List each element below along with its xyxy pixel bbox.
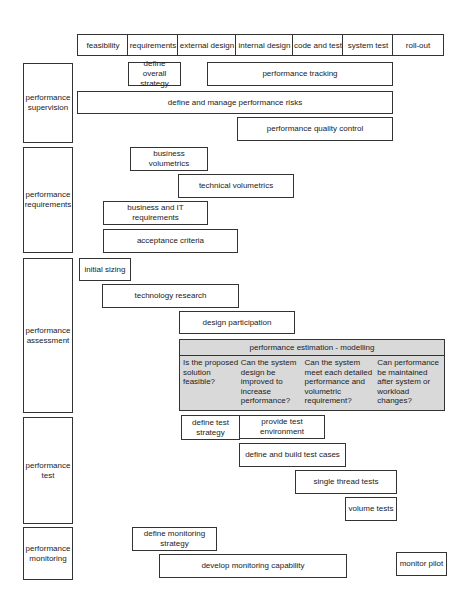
activity-technical-volumetrics: technical volumetrics <box>178 174 294 198</box>
phase-internal-design: internal design <box>235 34 294 56</box>
row-label-supervision: performance supervision <box>23 63 73 143</box>
estimation-question: Can the system design be improved to inc… <box>241 358 305 406</box>
row-label-test: performance test <box>23 417 73 524</box>
activity-define-monitoring-strategy: define monitoring strategy <box>132 527 217 551</box>
activity-business-volumetrics: business volumetrics <box>130 147 208 171</box>
activity-quality-control: performance quality control <box>237 117 393 141</box>
activity-single-thread-tests: single thread tests <box>295 470 397 494</box>
activity-performance-tracking: performance tracking <box>207 62 393 86</box>
activity-initial-sizing: initial sizing <box>79 258 131 281</box>
phase-system-test: system test <box>342 34 394 56</box>
activity-acceptance-criteria: acceptance criteria <box>103 229 238 253</box>
activity-define-build-test-cases: define and build test cases <box>239 443 346 467</box>
activity-define-manage-risks: define and manage performance risks <box>77 91 393 114</box>
phase-code-and-test: code and test <box>292 34 344 56</box>
row-label-monitoring: performance monitoring <box>23 527 73 580</box>
estimation-modelling-panel: performance estimation - modelling Is th… <box>179 339 445 411</box>
activity-monitor-pilot: monitor pilot <box>396 552 447 576</box>
activity-design-participation: design participation <box>179 311 295 334</box>
activity-define-test-strategy: define test strategy <box>181 415 240 440</box>
activity-technology-research: technology research <box>102 284 239 308</box>
row-label-requirements: performance requirements <box>23 147 73 253</box>
phase-external-design: external design <box>177 34 237 56</box>
phase-roll-out: roll-out <box>392 34 444 56</box>
activity-define-overall-strategy: define overall strategy <box>128 62 181 86</box>
estimation-question: Can the system meet each detailed perfor… <box>305 358 378 406</box>
activity-business-it-requirements: business and IT requirements <box>103 201 208 225</box>
estimation-question: Can performance be maintained after syst… <box>377 358 441 406</box>
estimation-title: performance estimation - modelling <box>180 340 444 356</box>
activity-volume-tests: volume tests <box>345 497 397 521</box>
phase-feasibility: feasibility <box>77 34 129 56</box>
activity-provide-test-environment: provide test environment <box>239 415 325 439</box>
estimation-question: Is the proposed solution feasible? <box>183 358 241 406</box>
row-label-assessment: performance assessment <box>23 258 73 413</box>
activity-develop-monitoring-capability: develop monitoring capability <box>159 554 347 578</box>
phase-requirements: requirements <box>127 34 179 56</box>
